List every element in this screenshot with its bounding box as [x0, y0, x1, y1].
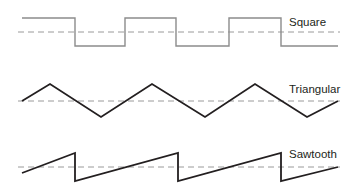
sawtooth-wave-label: Sawtooth	[289, 148, 337, 160]
triangular-wave-label: Triangular	[289, 83, 341, 95]
waveform-figure: Square Triangular Sawtooth	[0, 0, 360, 196]
square-wave-label: Square	[289, 16, 326, 28]
